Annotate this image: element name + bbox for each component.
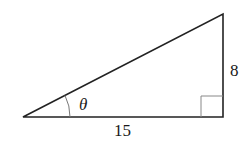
angle-label-theta: θ — [79, 95, 87, 114]
side-label-vertical: 8 — [230, 61, 239, 80]
angle-arc — [65, 96, 70, 118]
triangle-diagram: θ 8 15 — [0, 0, 241, 142]
right-triangle — [23, 14, 223, 117]
side-label-horizontal: 15 — [114, 121, 131, 140]
right-angle-marker — [201, 96, 223, 117]
